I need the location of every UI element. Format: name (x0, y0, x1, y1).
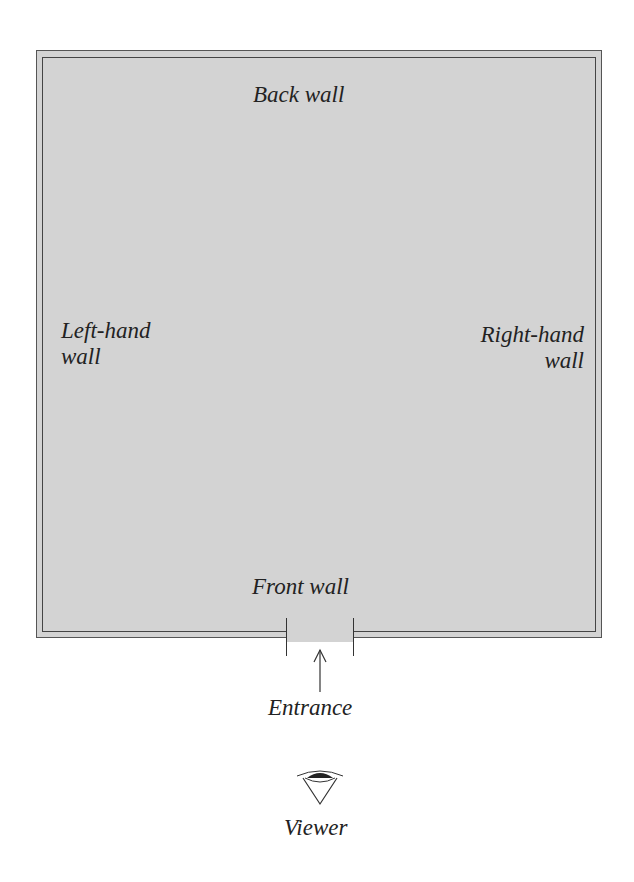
arrow-up-icon (313, 648, 327, 692)
entrance-jamb-right (353, 618, 354, 656)
viewer-label: Viewer (284, 815, 347, 841)
eye-icon (295, 768, 345, 808)
left-wall-label-line2: wall (61, 344, 150, 370)
right-wall-label: Right-hand wall (481, 322, 585, 374)
left-wall-label-line1: Left-hand (61, 318, 150, 344)
left-wall-label: Left-hand wall (61, 318, 150, 370)
right-wall-label-line1: Right-hand (481, 322, 585, 348)
entrance-jamb-left (286, 618, 287, 656)
front-wall-label: Front wall (252, 574, 349, 600)
right-wall-label-line2: wall (481, 348, 585, 374)
back-wall-label: Back wall (253, 82, 344, 108)
entrance-gap (286, 628, 354, 642)
entrance-label: Entrance (268, 695, 352, 721)
